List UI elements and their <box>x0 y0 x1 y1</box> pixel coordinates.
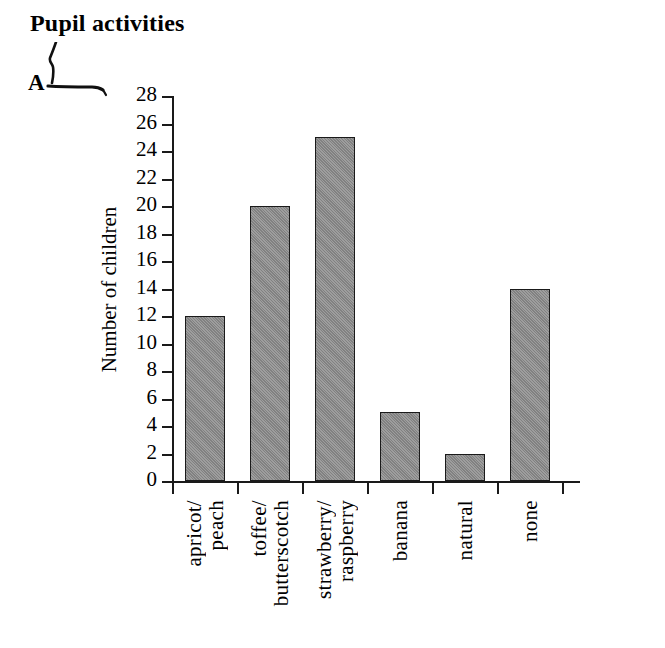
y-tick-label: 2 <box>123 442 157 463</box>
y-tick-label: 8 <box>123 359 157 380</box>
x-tick-mark <box>562 483 564 494</box>
x-category-label: banana <box>389 500 411 648</box>
y-tick-mark: 20 <box>162 206 172 208</box>
x-axis-line <box>172 481 580 483</box>
y-tick-label: 22 <box>123 167 157 188</box>
bar <box>380 412 420 481</box>
bar <box>185 316 225 481</box>
y-tick-mark: 0 <box>162 481 172 483</box>
y-axis-title: Number of children <box>96 96 122 483</box>
y-tick-label: 24 <box>123 139 157 160</box>
x-category-label-line: apricot/ <box>183 500 205 567</box>
y-tick-label: 28 <box>123 84 157 105</box>
y-tick-mark: 2 <box>162 454 172 456</box>
x-tick-mark <box>237 483 239 494</box>
bar <box>250 206 290 481</box>
y-tick-mark: 4 <box>162 426 172 428</box>
y-tick-label: 10 <box>123 332 157 353</box>
x-tick-mark <box>432 483 434 494</box>
y-tick-label: 16 <box>123 249 157 270</box>
x-category-label: strawberry/raspberry <box>313 500 357 648</box>
y-tick-mark: 14 <box>162 289 172 291</box>
y-tick-mark: 6 <box>162 399 172 401</box>
handwritten-annotation: A <box>24 42 134 102</box>
x-category-label: toffee/butterscotch <box>248 500 292 648</box>
y-tick-label: 26 <box>123 112 157 133</box>
y-tick-mark: 24 <box>162 151 172 153</box>
y-tick-mark: 26 <box>162 124 172 126</box>
y-tick-mark: 16 <box>162 261 172 263</box>
x-category-label-line: banana <box>389 500 411 561</box>
y-tick-mark: 18 <box>162 234 172 236</box>
x-category-label-line: peach <box>205 500 227 550</box>
y-tick-label: 18 <box>123 222 157 243</box>
x-tick-mark <box>367 483 369 494</box>
x-category-label: natural <box>454 500 476 648</box>
y-tick-label: 0 <box>123 469 157 490</box>
bar-chart-plot: 0246810121416182022242628 <box>172 96 562 483</box>
y-tick-label: 6 <box>123 387 157 408</box>
y-tick-mark: 12 <box>162 316 172 318</box>
x-category-label: apricot/peach <box>183 500 227 648</box>
y-tick-mark: 8 <box>162 371 172 373</box>
x-tick-mark <box>497 483 499 494</box>
x-category-label: none <box>519 500 541 648</box>
x-category-label-line: butterscotch <box>270 500 292 606</box>
y-tick-mark: 10 <box>162 344 172 346</box>
y-tick-label: 20 <box>123 194 157 215</box>
y-axis-line <box>172 96 174 483</box>
x-category-label-line: toffee/ <box>248 500 270 557</box>
x-tick-mark <box>172 483 174 494</box>
y-tick-label: 14 <box>123 277 157 298</box>
page-title: Pupil activities <box>30 10 185 37</box>
x-category-label-line: raspberry <box>335 500 357 582</box>
bar <box>510 289 550 482</box>
y-tick-mark: 28 <box>162 96 172 98</box>
y-tick-label: 4 <box>123 414 157 435</box>
y-tick-label: 12 <box>123 304 157 325</box>
x-tick-mark <box>302 483 304 494</box>
bar <box>315 137 355 481</box>
bar <box>445 454 485 482</box>
x-category-label-line: none <box>519 500 541 542</box>
pen-stroke-icon <box>24 42 134 102</box>
x-category-label-line: strawberry/ <box>313 500 335 599</box>
y-tick-mark: 22 <box>162 179 172 181</box>
x-category-label-line: natural <box>454 500 476 560</box>
